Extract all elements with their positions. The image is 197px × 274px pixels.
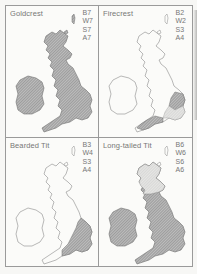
autumn-code: A4 [83,166,94,174]
autumn-code: A7 [83,34,94,42]
map-panel-firecrest: Firecrest B2 W2 S3 A4 [99,6,192,137]
map-panel-bearded-tit: Bearded Tit B3 W4 S3 A4 [6,138,99,269]
spring-code: S3 [176,26,187,34]
spring-code: S3 [83,158,94,166]
breeding-code: B6 [176,141,187,149]
autumn-code: A4 [176,34,187,42]
breeding-code: B7 [83,9,94,17]
breeding-code: B2 [176,9,187,17]
map-panel-long-tailed-tit: Long-tailed Tit B6 W6 S6 A6 [99,138,192,269]
status-codes: B3 W4 S3 A4 [83,141,94,174]
status-codes: B7 W7 S7 A7 [83,9,94,42]
status-codes: B6 W6 S6 A6 [176,141,187,174]
page-edge-shadow [193,10,197,120]
species-name: Goldcrest [10,9,43,18]
spring-code: S7 [83,26,94,34]
spring-code: S6 [176,158,187,166]
species-name: Firecrest [103,9,133,18]
breeding-code: B3 [83,141,94,149]
species-name: Bearded Tit [10,141,49,150]
winter-code: W4 [83,149,94,157]
species-name: Long-tailed Tit [103,141,152,150]
autumn-code: A6 [176,166,187,174]
winter-code: W7 [83,17,94,25]
status-codes: B2 W2 S3 A4 [176,9,187,42]
winter-code: W2 [176,17,187,25]
map-panel-goldcrest: Goldcrest B7 W7 S7 A7 [6,6,99,137]
winter-code: W6 [176,149,187,157]
